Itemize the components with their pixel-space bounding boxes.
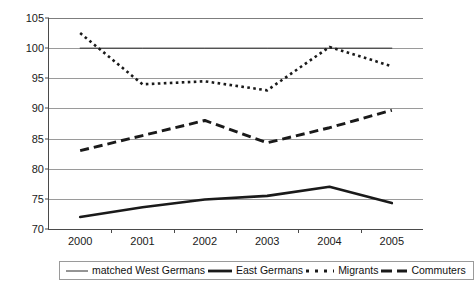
x-axis-tick-label: 2005	[380, 236, 404, 247]
legend-item[interactable]: East Germans	[207, 262, 305, 279]
x-axis-tick-label: 2004	[317, 236, 341, 247]
y-axis-tick-label: 70	[32, 224, 44, 235]
legend-item[interactable]: Migrants	[305, 262, 380, 279]
x-axis-tick-mark	[174, 229, 175, 233]
legend-item-label: Migrants	[335, 265, 380, 276]
y-axis-tick-label: 90	[32, 103, 44, 114]
legend-item[interactable]: matched West Germans	[65, 262, 207, 279]
dashed-swatch	[380, 266, 408, 276]
x-axis-tick-label: 2002	[193, 236, 217, 247]
x-axis-tick-label: 2001	[130, 236, 154, 247]
legend-item-label: matched West Germans	[89, 265, 207, 276]
y-axis-tick-label: 100	[26, 43, 44, 54]
x-axis-tick-mark	[361, 229, 362, 233]
x-axis-tick-mark	[236, 229, 237, 233]
y-axis-tick-label: 80	[32, 163, 44, 174]
series-line-east-germans	[80, 187, 392, 217]
x-axis-tick-mark	[298, 229, 299, 233]
chart-legend: matched West GermansEast GermansMigrants…	[59, 261, 474, 280]
x-axis-tick-mark	[111, 229, 112, 233]
thick-solid-swatch	[207, 266, 233, 276]
legend-item-label: Commuters	[408, 265, 467, 276]
legend-item-label: East Germans	[233, 265, 305, 276]
thin-solid-swatch	[65, 266, 89, 276]
dotted-swatch	[305, 266, 335, 276]
series-line-commuters	[80, 110, 392, 150]
y-axis-tick-label: 105	[26, 13, 44, 24]
series-layer	[49, 18, 423, 229]
x-axis-tick-label: 2003	[255, 236, 279, 247]
y-axis-tick-label: 75	[32, 193, 44, 204]
series-line-migrants	[80, 33, 392, 90]
plot-area: 707580859095100105 200020012002200320042…	[48, 18, 423, 230]
x-axis-tick-label: 2000	[68, 236, 92, 247]
y-axis-tick-label: 85	[32, 133, 44, 144]
y-axis-tick-label: 95	[32, 73, 44, 84]
legend-item[interactable]: Commuters	[380, 262, 467, 279]
